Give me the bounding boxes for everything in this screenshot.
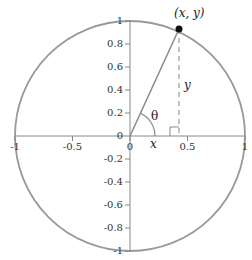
x-tick-label: 0.5 bbox=[180, 141, 196, 152]
y-tick-label: 0 bbox=[117, 130, 123, 141]
x-tick-label: -0.5 bbox=[63, 141, 82, 152]
y-tick-label: -0.8 bbox=[104, 222, 123, 233]
y-tick-label: 0.8 bbox=[107, 38, 123, 49]
unit-circle-diagram: -1 -0.5 0 0.5 1 1 0.8 0.6 0.4 0.2 0 -0.2… bbox=[0, 0, 252, 260]
y-segment-label: y bbox=[183, 78, 191, 92]
right-angle-marker bbox=[170, 127, 179, 136]
y-tick-label: -1 bbox=[113, 245, 123, 256]
x-tick-label: 0 bbox=[127, 141, 133, 152]
theta-label: θ bbox=[151, 109, 158, 123]
y-tick-label: -0.2 bbox=[104, 153, 123, 164]
point-marker bbox=[176, 26, 183, 33]
x-segment-label: x bbox=[150, 137, 157, 151]
y-tick-label: 0.6 bbox=[107, 61, 123, 72]
x-tick-label: 1 bbox=[242, 141, 248, 152]
y-tick-label: 0.4 bbox=[107, 84, 123, 95]
y-tick-label: 1 bbox=[117, 15, 123, 26]
y-tick-label: 0.2 bbox=[107, 107, 123, 118]
y-tick-label: -0.4 bbox=[104, 176, 123, 187]
point-label: (x, y) bbox=[174, 6, 205, 20]
y-tick-label: -0.6 bbox=[104, 199, 123, 210]
x-tick-label: -1 bbox=[10, 141, 20, 152]
